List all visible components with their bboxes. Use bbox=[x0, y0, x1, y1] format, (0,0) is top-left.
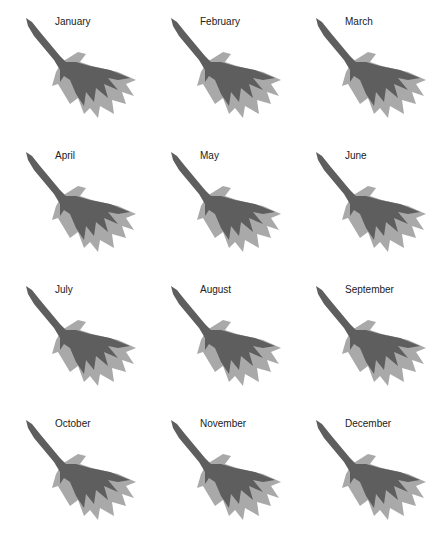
panel-may: May bbox=[145, 134, 290, 268]
panel-november: November bbox=[145, 402, 290, 534]
panel-label: December bbox=[345, 418, 391, 429]
panel-january: January bbox=[0, 0, 145, 134]
panel-october: October bbox=[0, 402, 145, 534]
panel-label: March bbox=[345, 16, 373, 27]
panel-label: June bbox=[345, 150, 367, 161]
panel-label: July bbox=[55, 284, 73, 295]
panel-label: April bbox=[55, 150, 75, 161]
panel-april: April bbox=[0, 134, 145, 268]
panel-label: October bbox=[55, 418, 91, 429]
panel-july: July bbox=[0, 268, 145, 402]
panel-label: November bbox=[200, 418, 246, 429]
panel-label: September bbox=[345, 284, 394, 295]
panel-label: May bbox=[200, 150, 219, 161]
panel-june: June bbox=[290, 134, 435, 268]
panel-label: February bbox=[200, 16, 240, 27]
panel-march: March bbox=[290, 0, 435, 134]
panel-august: August bbox=[145, 268, 290, 402]
panel-label: August bbox=[200, 284, 231, 295]
panel-december: December bbox=[290, 402, 435, 534]
panel-label: January bbox=[55, 16, 91, 27]
panel-february: February bbox=[145, 0, 290, 134]
panel-september: September bbox=[290, 268, 435, 402]
small-multiples-grid: January February March April May June Ju… bbox=[0, 0, 435, 534]
